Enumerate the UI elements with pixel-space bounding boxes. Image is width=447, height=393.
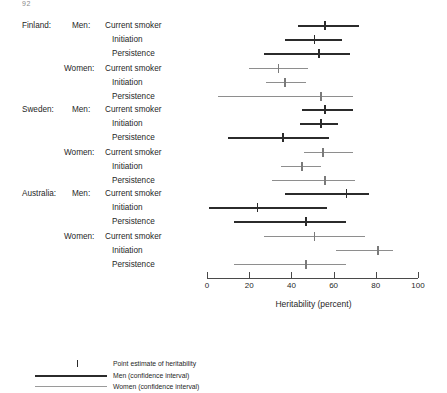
confidence-interval-bar [209, 207, 327, 209]
point-estimate-marker [282, 133, 283, 142]
confidence-interval-bar [234, 264, 346, 265]
measure-label: Initiation [112, 245, 143, 256]
x-axis-tick [418, 272, 419, 278]
legend-label: Point estimate of heritability [113, 358, 196, 369]
forest-row: Women:Current smoker [0, 63, 447, 74]
confidence-interval-bar [304, 152, 353, 153]
confidence-interval-bar [300, 123, 338, 125]
legend-item: Point estimate of heritability [0, 358, 447, 369]
forest-row: Initiation [0, 77, 447, 88]
x-axis-tick [207, 272, 208, 278]
legend-men-line [35, 375, 107, 377]
measure-label: Persistence [112, 175, 155, 186]
point-estimate-marker [314, 35, 315, 44]
point-estimate-marker [324, 176, 325, 185]
forest-row: Finland:Men:Current smoker [0, 20, 447, 31]
forest-row: Initiation [0, 161, 447, 172]
point-estimate-marker [284, 78, 285, 87]
x-axis-tick-label: 80 [371, 281, 380, 290]
x-axis-tick-label: 0 [205, 281, 209, 290]
forest-row: Persistence [0, 259, 447, 270]
legend-label: Women (confidence interval) [113, 381, 199, 392]
forest-row: Persistence [0, 48, 447, 59]
point-estimate-marker [346, 189, 347, 198]
confidence-interval-bar [285, 193, 369, 195]
point-estimate-marker [377, 246, 378, 255]
country-label: Finland: [22, 20, 51, 31]
point-estimate-marker [257, 203, 258, 212]
point-estimate-marker [324, 21, 325, 30]
sex-label: Women: [64, 231, 94, 242]
forest-row: Women:Current smoker [0, 147, 447, 158]
measure-label: Current smoker [105, 63, 161, 74]
x-axis-title-text: Heritability (percent) [275, 299, 351, 309]
confidence-interval-bar [264, 53, 351, 55]
country-label: Sweden: [22, 104, 54, 115]
measure-label: Current smoker [105, 20, 161, 31]
measure-label: Initiation [112, 202, 143, 213]
legend-women-line [35, 386, 107, 387]
measure-label: Persistence [112, 259, 155, 270]
legend-point-estimate-marker [77, 360, 78, 367]
point-estimate-marker [324, 105, 325, 114]
sex-label: Women: [64, 63, 94, 74]
forest-row: Initiation [0, 245, 447, 256]
x-axis-tick [249, 272, 250, 278]
forest-row: Initiation [0, 34, 447, 45]
point-estimate-marker [320, 119, 321, 128]
measure-label: Current smoker [105, 104, 161, 115]
country-label: Australia: [22, 188, 56, 199]
confidence-interval-bar [234, 221, 346, 223]
point-estimate-marker [318, 49, 319, 58]
confidence-interval-bar [298, 25, 359, 27]
legend-label: Men (confidence interval) [113, 370, 189, 381]
point-estimate-marker [314, 232, 315, 241]
x-axis-tick [291, 272, 292, 278]
forest-row: Persistence [0, 132, 447, 143]
forest-row: Persistence [0, 216, 447, 227]
sex-label: Men: [72, 20, 90, 31]
legend-item: Men (confidence interval) [0, 370, 447, 381]
measure-label: Persistence [112, 48, 155, 59]
x-axis-tick-label: 60 [329, 281, 338, 290]
forest-row: Initiation [0, 202, 447, 213]
confidence-interval-bar [218, 96, 353, 97]
chart-legend: Point estimate of heritabilityMen (confi… [0, 358, 447, 393]
confidence-interval-bar [336, 250, 393, 251]
forest-row: Sweden:Men:Current smoker [0, 104, 447, 115]
confidence-interval-bar [228, 137, 329, 139]
figure-page: 92 Finland:Men:Current smokerInitiationP… [0, 0, 447, 393]
forest-row: Women:Current smoker [0, 231, 447, 242]
measure-label: Initiation [112, 118, 143, 129]
confidence-interval-bar [272, 180, 354, 181]
measure-label: Persistence [112, 132, 155, 143]
forest-row: Australia:Men:Current smoker [0, 188, 447, 199]
sex-label: Men: [72, 104, 90, 115]
sex-label: Women: [64, 147, 94, 158]
x-axis-tick-label: 40 [287, 281, 296, 290]
measure-label: Initiation [112, 34, 143, 45]
point-estimate-marker [301, 162, 302, 171]
x-axis-tick [334, 272, 335, 278]
point-estimate-marker [305, 217, 306, 226]
forest-plot: Finland:Men:Current smokerInitiationPers… [0, 0, 447, 300]
forest-row: Initiation [0, 118, 447, 129]
point-estimate-marker [320, 92, 321, 101]
forest-row: Persistence [0, 91, 447, 102]
x-axis-title: Heritability (percent) [0, 299, 447, 309]
measure-label: Persistence [112, 91, 155, 102]
measure-label: Current smoker [105, 231, 161, 242]
x-axis-tick-label: 20 [245, 281, 254, 290]
point-estimate-marker [322, 148, 323, 157]
measure-label: Initiation [112, 161, 143, 172]
measure-label: Persistence [112, 216, 155, 227]
measure-label: Current smoker [105, 188, 161, 199]
measure-label: Current smoker [105, 147, 161, 158]
x-axis-line [207, 278, 418, 279]
confidence-interval-bar [302, 109, 353, 111]
point-estimate-marker [278, 64, 279, 73]
forest-row: Persistence [0, 175, 447, 186]
x-axis-tick-label: 100 [411, 281, 424, 290]
measure-label: Initiation [112, 77, 143, 88]
point-estimate-marker [305, 260, 306, 269]
